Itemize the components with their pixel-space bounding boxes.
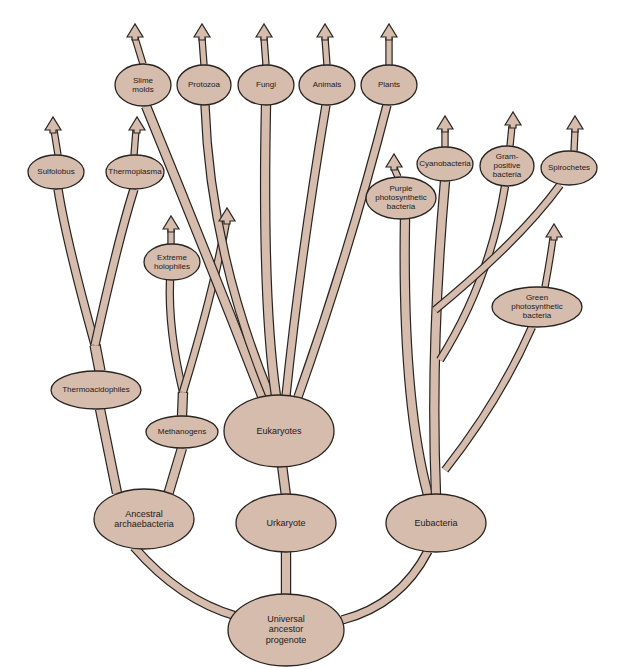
node-sulfolobus [28, 155, 84, 189]
stem-spirochetes [574, 130, 575, 151]
stem-fungi [264, 38, 266, 65]
node-methanogens [146, 416, 218, 448]
branch-to-sulfolobus [58, 189, 95, 345]
arrow-purple [386, 154, 402, 170]
node-spirochetes [541, 151, 597, 185]
node-eubacteria [386, 494, 486, 552]
branch-to-cyanobacteria [434, 181, 445, 495]
node-eukaryotes [224, 395, 334, 467]
branch-archae-thermoacidophiles [100, 409, 117, 493]
branch-to-plants [298, 105, 387, 397]
node-animals [299, 65, 355, 105]
node-universal [228, 594, 344, 666]
arrow-slime-molds [127, 24, 143, 40]
branch-meth-fork [182, 392, 183, 416]
stem-gram-positive [510, 126, 512, 146]
branch-archae-methanogens [168, 448, 182, 495]
stem-sulfolobus [54, 130, 58, 155]
arrow-halophiles [163, 216, 179, 232]
branch-urkaryote-eukaryotes [282, 465, 286, 496]
branch-to-thermoplasma [95, 189, 134, 345]
node-slime-molds [115, 64, 171, 106]
node-ancestral-archaebacteria [94, 489, 194, 549]
arrow-spirochetes [567, 116, 583, 132]
arrow-cyanobacteria [437, 116, 453, 132]
stem-thermoplasma [134, 130, 136, 155]
arrow-sulfolobus [45, 117, 61, 133]
node-purple-photosynthetic [366, 177, 436, 219]
node-fungi [238, 65, 294, 105]
branch-to-green [445, 327, 532, 470]
stem-protozoa [202, 38, 204, 65]
branch-to-halophiles [170, 280, 183, 392]
branch-universal-archaebacteria [134, 547, 236, 616]
arrow-gram-positive [505, 112, 521, 128]
node-plants [361, 65, 417, 105]
node-cyanobacteria [417, 147, 473, 181]
arrow-plants [381, 24, 397, 40]
arrow-animals [317, 24, 333, 40]
arrow-fungi [256, 24, 272, 40]
arrow-methanogens-side [219, 208, 235, 224]
branch-to-animals [286, 105, 326, 396]
stem-animals [325, 38, 327, 65]
stem-slime-molds [135, 38, 143, 64]
stem-green [545, 238, 553, 287]
branch-to-purple [405, 219, 428, 495]
branch-universal-eubacteria [342, 551, 428, 620]
node-green-photosynthetic [492, 287, 582, 327]
arrow-protozoa [194, 24, 210, 40]
node-protozoa [177, 65, 231, 105]
arrow-green [546, 224, 562, 240]
node-thermoacidophiles [51, 371, 141, 409]
branch-thermo-fork [95, 345, 100, 371]
node-urkaryote [236, 494, 336, 552]
branch-to-fungi [265, 105, 276, 396]
phylogenetic-tree-diagram: Universal ancestor progenoteAncestral ar… [0, 0, 632, 669]
arrow-thermoplasma [129, 117, 145, 133]
node-extreme-halophiles [144, 244, 200, 280]
node-thermoplasma [106, 155, 164, 189]
node-gram-positive [480, 146, 534, 186]
tree-canvas [0, 0, 632, 669]
